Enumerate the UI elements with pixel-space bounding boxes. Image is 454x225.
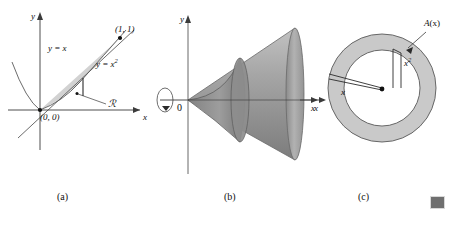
panel-b-svg — [140, 0, 320, 185]
panel-b-y-axis-arrowhead — [185, 15, 191, 23]
caption-b: (b) — [224, 191, 236, 202]
panel-c-x-axis-label: x — [314, 104, 318, 113]
y-axis-arrowhead — [37, 12, 43, 20]
panel-b-solid-of-revolution: 0 x y — [140, 0, 310, 185]
point-label-0-0: (0, 0) — [40, 113, 60, 122]
panel-c-axis-arrowhead — [319, 97, 326, 103]
line-y-equals-x — [18, 30, 134, 138]
panel-a-region-plot: (1, 1) (0, 0) y = x y = x2 ℛ x y — [0, 0, 160, 185]
washer-center-dot — [380, 87, 385, 92]
curve-label-exponent: 2 — [115, 57, 118, 64]
area-label-leader — [408, 32, 426, 48]
panel-c-washer-cross-section: A(x) x x2 x — [300, 0, 454, 185]
panel-b-origin-label: 0 — [177, 103, 182, 113]
region-label-leader — [78, 94, 106, 104]
inner-radius-label-x-squared: x2 — [404, 59, 411, 68]
x-axis-arrowhead — [133, 107, 140, 113]
area-label-A-of-x: A(x) — [424, 19, 440, 28]
panel-b-y-axis-label: y — [180, 15, 184, 24]
inner-radius-exponent: 2 — [408, 56, 411, 63]
label-line-y-equals-x: y = x — [48, 44, 67, 53]
figure-container: (1, 1) (0, 0) y = x y = x2 ℛ x y — [0, 0, 454, 225]
caption-a: (a) — [57, 191, 68, 202]
curve-label-base: y = x — [96, 59, 115, 69]
region-leader-dot — [76, 92, 79, 95]
panel-a-y-axis-label: y — [31, 12, 35, 21]
outer-radius-label-x: x — [341, 88, 345, 97]
end-of-proof-square-icon — [430, 196, 445, 209]
point-label-1-1: (1, 1) — [115, 25, 135, 34]
label-curve-y-equals-x-squared: y = x2 — [96, 60, 118, 69]
panel-a-svg — [0, 0, 160, 185]
point-dot-1-1 — [118, 36, 122, 40]
area-label-argument: (x) — [430, 18, 441, 28]
region-label-script-R: ℛ — [108, 99, 116, 109]
caption-c: (c) — [358, 191, 369, 202]
